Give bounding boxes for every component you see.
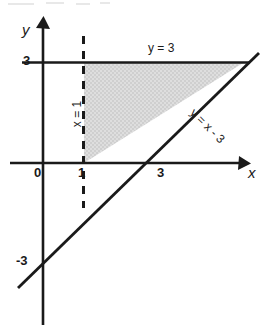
math-graph-figure: y x 3 -3 0 1 3 y = 3 x = 1 y = x - 3 — [0, 0, 271, 332]
origin-label: 0 — [34, 166, 41, 179]
equation-label-y-equals-3: y = 3 — [148, 42, 174, 54]
x-axis-label: x — [248, 165, 256, 180]
y-tick-label-3: 3 — [23, 54, 30, 67]
x-tick-label-1: 1 — [78, 166, 85, 179]
y-tick-label-minus-3: -3 — [16, 254, 28, 267]
x-tick-label-3: 3 — [157, 166, 164, 179]
equation-label-x-equals-1: x = 1 — [71, 101, 83, 127]
y-axis-label: y — [22, 22, 30, 37]
y-axis-arrowhead — [36, 16, 50, 29]
